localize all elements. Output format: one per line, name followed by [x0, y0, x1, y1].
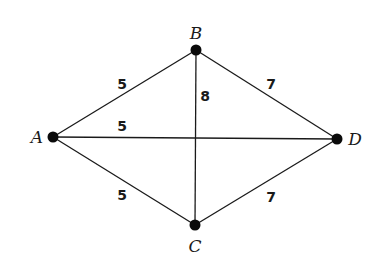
edge-weight-a-b: 5 — [117, 76, 127, 92]
edge-c-d — [195, 139, 337, 225]
weighted-graph-diagram: 555877ABCD — [0, 0, 382, 275]
edge-weight-a-c: 5 — [117, 187, 127, 203]
edge-weight-b-c: 8 — [200, 88, 210, 104]
node-label-a: A — [29, 127, 43, 147]
node-label-d: D — [347, 129, 362, 149]
edge-b-c — [195, 50, 196, 225]
edge-weight-b-d: 7 — [266, 76, 276, 92]
node-a — [48, 132, 59, 143]
edge-b-d — [196, 50, 337, 139]
edge-weight-a-d: 5 — [117, 118, 127, 134]
edge-weight-c-d: 7 — [266, 189, 276, 205]
node-b — [191, 45, 202, 56]
node-label-c: C — [188, 236, 201, 256]
edges-group — [53, 50, 337, 225]
node-d — [332, 134, 343, 145]
node-label-b: B — [189, 23, 203, 43]
edge-a-c — [53, 137, 195, 225]
node-c — [190, 220, 201, 231]
